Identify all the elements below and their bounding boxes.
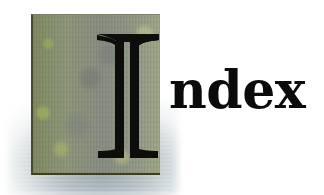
drop-cap-letter: I xyxy=(97,33,159,159)
heading-rest-text: ndex xyxy=(169,55,305,125)
index-heading: Index I ndex xyxy=(0,0,324,195)
heading-full-text: Index xyxy=(0,0,1,1)
drop-cap-i-glyph-icon xyxy=(97,33,159,159)
